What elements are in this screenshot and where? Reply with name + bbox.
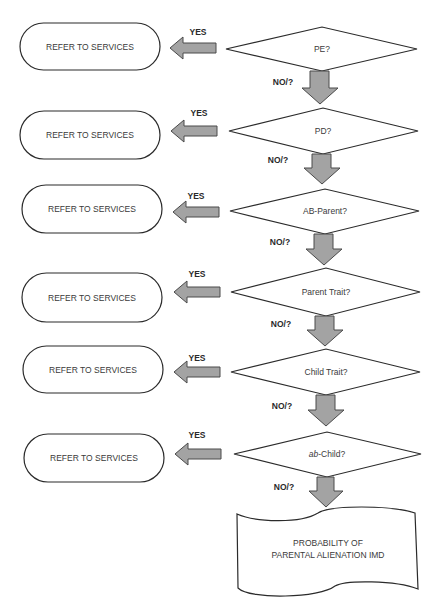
- yes-label: YES: [188, 353, 205, 363]
- no-label: NO/?: [272, 401, 292, 411]
- terminal-refer-1: REFER TO SERVICES: [20, 23, 160, 70]
- outcome-punched-tape: PROBABILITY OF PARENTAL ALIENATION IMD: [237, 507, 418, 596]
- arrow-left-icon: [173, 201, 219, 223]
- decision-label: Parent Trait?: [302, 287, 351, 297]
- decision-label: AB-Parent?: [303, 206, 347, 216]
- arrow-left-icon: [170, 37, 216, 59]
- arrow-down-icon: [309, 477, 343, 507]
- arrow-down-icon: [308, 395, 344, 426]
- decision-label: ab-Child?: [309, 449, 346, 459]
- decision-parent-trait: Parent Trait?: [231, 268, 420, 316]
- terminal-label: REFER TO SERVICES: [48, 293, 136, 303]
- arrow-down-icon: [302, 71, 338, 104]
- decision-label-rest: -Child?: [318, 449, 345, 459]
- decision-label: PD?: [315, 126, 332, 136]
- arrow-left-icon: [174, 361, 220, 383]
- no-label: NO/?: [274, 482, 294, 492]
- terminal-label: REFER TO SERVICES: [48, 204, 136, 214]
- decision-label: Child Trait?: [305, 367, 348, 377]
- parental-alienation-flowchart: REFER TO SERVICES YES PE? NO/? REFER TO …: [0, 0, 443, 608]
- yes-label: YES: [189, 27, 206, 37]
- decision-label-italic: ab: [309, 449, 319, 459]
- no-label: NO/?: [268, 155, 288, 165]
- yes-label: YES: [190, 108, 207, 118]
- terminal-label: REFER TO SERVICES: [46, 130, 134, 140]
- terminal-refer-5: REFER TO SERVICES: [23, 346, 163, 393]
- arrow-left-icon: [175, 443, 221, 465]
- decision-label: PE?: [314, 44, 330, 54]
- terminal-refer-2: REFER TO SERVICES: [20, 111, 160, 159]
- yes-label: YES: [188, 269, 205, 279]
- yes-label: YES: [187, 191, 204, 201]
- no-label: NO/?: [271, 319, 291, 329]
- decision-child-trait: Child Trait?: [231, 349, 420, 395]
- decision-ab-parent: AB-Parent?: [230, 189, 419, 234]
- arrow-left-icon: [174, 281, 220, 303]
- no-label: NO/?: [270, 237, 290, 247]
- arrow-down-icon: [304, 154, 340, 184]
- decision-pd: PD?: [229, 108, 418, 154]
- arrow-down-icon: [307, 316, 343, 346]
- yes-label: YES: [188, 430, 205, 440]
- outcome-line-1: PROBABILITY OF: [293, 538, 363, 548]
- terminal-label: REFER TO SERVICES: [50, 453, 138, 463]
- terminal-refer-4: REFER TO SERVICES: [22, 273, 162, 322]
- arrow-left-icon: [171, 120, 217, 142]
- outcome-line-2: PARENTAL ALIENATION IMD: [271, 550, 384, 560]
- no-label: NO/?: [273, 77, 293, 87]
- terminal-refer-6: REFER TO SERVICES: [24, 434, 164, 482]
- terminal-refer-3: REFER TO SERVICES: [22, 185, 162, 233]
- terminal-label: REFER TO SERVICES: [46, 42, 134, 52]
- terminal-label: REFER TO SERVICES: [49, 365, 137, 375]
- arrow-down-icon: [306, 234, 342, 265]
- decision-pe: PE?: [226, 27, 417, 71]
- decision-ab-child: ab-Child?: [234, 432, 421, 477]
